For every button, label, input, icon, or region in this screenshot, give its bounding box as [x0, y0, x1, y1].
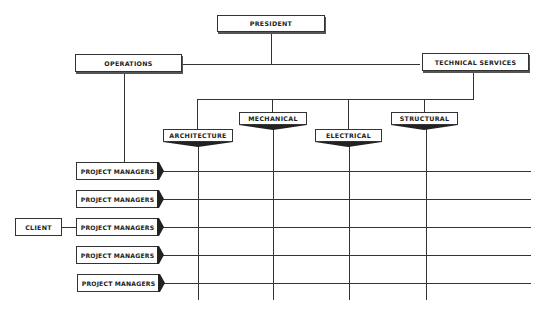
chevron-down-icon: [391, 125, 458, 131]
pm-label: PROJECT MANAGERS: [76, 162, 158, 180]
pm-row-line-4: [163, 255, 531, 256]
arch-column: [198, 145, 199, 300]
arch-drop: [197, 99, 198, 129]
pm-row-line-5: [163, 283, 531, 284]
pm-label: PROJECT MANAGERS: [77, 274, 159, 292]
mech-column: [273, 128, 274, 300]
departments-bus: [197, 99, 474, 100]
operations-box: OPERATIONS: [75, 54, 182, 72]
pm-label: PROJECT MANAGERS: [76, 218, 158, 236]
operations-connector: [124, 72, 125, 164]
struct-column: [426, 128, 427, 300]
department-label: STRUCTURAL: [391, 112, 458, 125]
department-label: ELECTRICAL: [315, 129, 382, 142]
arrow-right-icon: [157, 162, 165, 180]
ops-tech-connector: [182, 64, 420, 65]
mech-drop: [272, 99, 273, 112]
elec-drop: [348, 99, 349, 129]
chevron-down-icon: [315, 142, 382, 148]
pm-row-line-2: [163, 199, 531, 200]
chevron-down-icon: [239, 125, 307, 131]
arrow-right-icon: [157, 246, 165, 264]
elec-column: [349, 145, 350, 300]
pm-row-line-1: [163, 171, 531, 172]
arrow-right-icon: [157, 218, 165, 236]
struct-drop: [424, 99, 425, 112]
pm-label: PROJECT MANAGERS: [76, 246, 158, 264]
arrow-right-icon: [157, 190, 165, 208]
tech-services-connector: [473, 71, 474, 99]
arrow-right-icon: [158, 274, 166, 292]
chevron-down-icon: [163, 142, 233, 148]
pm-row-line-3: [163, 227, 531, 228]
president-box: PRESIDENT: [217, 15, 325, 32]
pm-label: PROJECT MANAGERS: [76, 190, 158, 208]
department-label: ARCHITECTURE: [163, 129, 233, 142]
client-box: CLIENT: [15, 218, 62, 236]
client-connector: [62, 227, 76, 228]
president-connector: [271, 32, 272, 64]
technical-services-box: TECHNICAL SERVICES: [422, 53, 529, 71]
department-label: MECHANICAL: [239, 112, 307, 125]
